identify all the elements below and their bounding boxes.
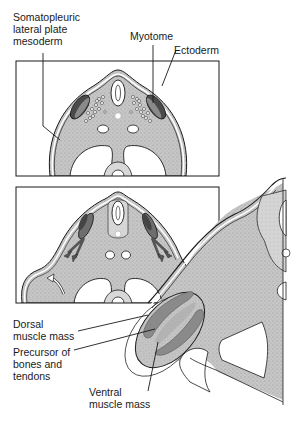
upper-section-panel [16, 61, 219, 182]
label-ectoderm: Ectoderm [174, 44, 219, 56]
notochord [115, 113, 121, 119]
label-ventral-muscle-mass: Ventral muscle mass [89, 386, 150, 410]
label-myotome: Myotome [130, 30, 173, 42]
neural-tube [111, 80, 125, 106]
label-precursor-bones-tendons: Precursor of bones and tendons [13, 346, 70, 382]
label-dorsal-muscle-mass: Dorsal muscle mass [13, 318, 74, 342]
label-somatopleuric-lateral-plate-mesoderm: Somatopleuric lateral plate mesoderm [13, 11, 80, 47]
